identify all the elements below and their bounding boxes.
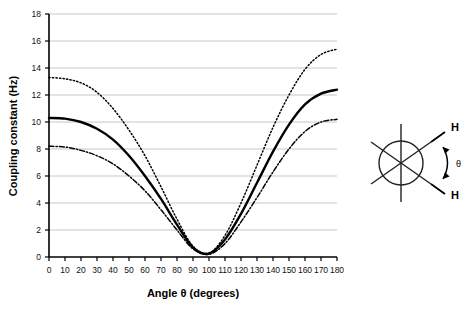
- x-tick-label: 0: [47, 265, 52, 275]
- y-axis-label: Coupling constant (Hz): [7, 75, 19, 196]
- x-tick-label: 180: [330, 265, 344, 275]
- back-bond-upper-left: [371, 142, 401, 163]
- x-tick-label: 140: [266, 265, 280, 275]
- x-tick-label: 60: [140, 265, 150, 275]
- x-tick-label: 80: [172, 265, 182, 275]
- x-tick-label: 30: [92, 265, 102, 275]
- curve-upper-curve: [49, 49, 337, 253]
- data-curves: [49, 49, 337, 254]
- karplus-plot: 024681012141618 010203040506070809010011…: [0, 0, 348, 311]
- x-tick-label: 20: [76, 265, 86, 275]
- y-tick-label: 16: [32, 36, 42, 46]
- y-tick-label: 14: [32, 63, 42, 73]
- x-tick-label: 90: [188, 265, 198, 275]
- y-tick-label: 0: [36, 252, 41, 262]
- front-bond-lower-left: [371, 163, 401, 184]
- curve-lower-curve: [49, 119, 337, 254]
- bond-to-h-bottom: [431, 184, 445, 194]
- x-tick-label: 160: [298, 265, 312, 275]
- curve-middle-curve: [49, 90, 337, 254]
- x-tick-label: 100: [202, 265, 216, 275]
- x-axis-label: Angle θ (degrees): [147, 287, 239, 299]
- bond-to-h-top: [431, 132, 445, 142]
- back-bond-upper-right: [401, 142, 431, 163]
- x-tick-label: 130: [250, 265, 264, 275]
- h-label-top: H: [451, 121, 459, 133]
- x-tick-label: 120: [234, 265, 248, 275]
- chart-panel: 024681012141618 010203040506070809010011…: [0, 0, 348, 311]
- x-tick-label: 40: [108, 265, 118, 275]
- y-tick-label: 8: [36, 144, 41, 154]
- x-tick-label: 150: [282, 265, 296, 275]
- newman-projection-panel: H H θ: [348, 0, 476, 311]
- x-tick-label: 170: [314, 265, 328, 275]
- newman-projection-diagram: H H θ: [348, 0, 476, 311]
- y-tick-label: 18: [32, 9, 42, 19]
- front-bond-lower-right: [401, 163, 431, 184]
- karplus-figure: 024681012141618 010203040506070809010011…: [0, 0, 476, 311]
- y-tick-label: 10: [32, 117, 42, 127]
- x-tick-label: 50: [124, 265, 134, 275]
- x-tick-label: 10: [60, 265, 70, 275]
- y-tick-label: 2: [36, 225, 41, 235]
- x-tick-label: 70: [156, 265, 166, 275]
- y-axis-ticks: 024681012141618: [32, 9, 49, 262]
- x-axis-ticks: 0102030405060708090100110120130140150160…: [47, 257, 345, 275]
- x-tick-label: 110: [218, 265, 232, 275]
- h-label-bottom: H: [451, 189, 459, 201]
- y-tick-label: 12: [32, 90, 42, 100]
- y-tick-label: 4: [36, 198, 41, 208]
- newman-bonds: [371, 124, 431, 202]
- grid-lines: [49, 14, 337, 230]
- theta-label: θ: [456, 159, 461, 169]
- y-tick-label: 6: [36, 171, 41, 181]
